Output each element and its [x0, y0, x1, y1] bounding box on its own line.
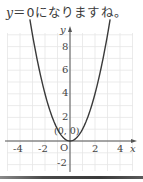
x-tick-label: -2 [38, 143, 48, 154]
y-tick-label: -2 [57, 157, 67, 168]
y-axis-arrow-icon [68, 26, 72, 32]
x-tick-label: 2 [92, 143, 98, 154]
y-tick-label: 2 [62, 111, 68, 122]
y-tick-label: 8 [62, 41, 68, 52]
vertex-annotation: (0, 0) [54, 125, 80, 136]
x-tick-label: 4 [117, 143, 123, 154]
y-tick-label: 6 [62, 64, 68, 75]
parabola-graph: y x O (0, 0) -4 -2 2 4 8 6 4 2 -2 [0, 0, 143, 182]
x-axis-label: x [130, 143, 136, 154]
x-tick-label: -4 [13, 143, 23, 154]
y-axis-label: y [59, 24, 66, 35]
origin-label: O [60, 142, 68, 153]
y-tick-label: 4 [62, 87, 68, 98]
bottom-divider [0, 176, 143, 179]
